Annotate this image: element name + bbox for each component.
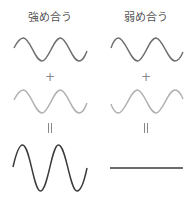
wave-left-result bbox=[13, 145, 87, 191]
wave-right-2 bbox=[111, 90, 183, 113]
equals-symbol-left bbox=[49, 123, 52, 133]
equals-symbol-right bbox=[145, 123, 148, 133]
wave-left-1 bbox=[14, 38, 87, 61]
wave-left-2 bbox=[14, 90, 87, 113]
interference-diagram bbox=[0, 0, 195, 208]
wave-right-1 bbox=[111, 38, 183, 61]
